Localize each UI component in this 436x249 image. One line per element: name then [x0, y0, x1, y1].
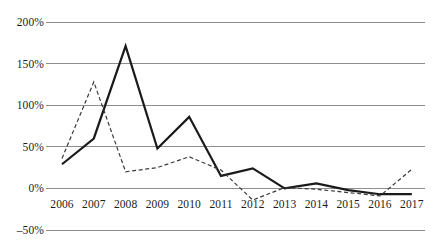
x-axis-tick-label-2016: 2016: [368, 198, 391, 210]
x-axis-tick-label-2010: 2010: [177, 198, 200, 210]
x-axis-labels: 2006200720082009201020112012201320142015…: [0, 0, 436, 249]
x-axis-tick-label-2008: 2008: [114, 198, 137, 210]
line-chart: 200%150%100%50%0%–50% 200620072008200920…: [0, 0, 436, 249]
x-axis-tick-label-2013: 2013: [273, 198, 296, 210]
x-axis-tick-label-2014: 2014: [305, 198, 328, 210]
x-axis-tick-label-2007: 2007: [82, 198, 105, 210]
x-axis-tick-label-2006: 2006: [50, 198, 73, 210]
x-axis-tick-label-2015: 2015: [336, 198, 359, 210]
x-axis-tick-label-2011: 2011: [210, 198, 233, 210]
x-axis-tick-label-2012: 2012: [241, 198, 264, 210]
x-axis-tick-label-2009: 2009: [146, 198, 169, 210]
x-axis-tick-label-2017: 2017: [400, 198, 423, 210]
